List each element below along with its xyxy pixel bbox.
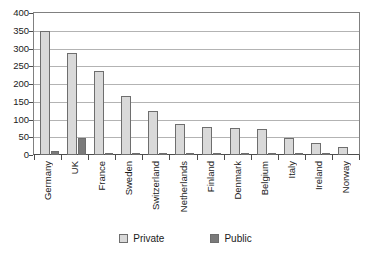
y-tick-label: 300 <box>0 44 29 53</box>
x-tick-label: France <box>96 161 107 191</box>
x-tick-mark <box>61 155 62 160</box>
x-tick-mark <box>359 155 360 160</box>
bar-private <box>338 147 348 155</box>
x-tick-mark <box>197 155 198 160</box>
bar-private <box>311 143 321 155</box>
y-tick-label: 50 <box>0 132 29 141</box>
x-tick-label: Finland <box>205 161 216 192</box>
bar-private <box>230 128 240 155</box>
x-tick-mark <box>34 155 35 160</box>
x-tick-label: Netherlands <box>178 161 189 212</box>
y-tick-label: 350 <box>0 26 29 35</box>
bar-group <box>332 13 359 155</box>
bar-group <box>61 13 88 155</box>
bar-private <box>257 129 267 155</box>
bar-group <box>305 13 332 155</box>
bar-chart: 050100150200250300350400 GermanyUKFrance… <box>0 0 371 265</box>
bar-group <box>251 13 278 155</box>
x-tick-label: Denmark <box>232 161 243 200</box>
x-tick-mark <box>278 155 279 160</box>
bar-private <box>40 31 50 155</box>
x-tick-label: Sweden <box>123 161 134 195</box>
x-tick-mark <box>251 155 252 160</box>
y-axis: 050100150200250300350400 <box>0 0 29 160</box>
legend-item-private: Private <box>119 233 164 244</box>
x-tick-label: Ireland <box>313 161 324 190</box>
x-tick-mark <box>115 155 116 160</box>
y-tick-label: 200 <box>0 79 29 88</box>
y-tick-label: 400 <box>0 8 29 17</box>
legend-label-private: Private <box>133 233 164 244</box>
bar-group <box>224 13 251 155</box>
public-swatch-icon <box>210 234 219 243</box>
bar-group <box>169 13 196 155</box>
x-axis-labels: GermanyUKFranceSwedenSwitzerlandNetherla… <box>34 161 359 223</box>
chart-legend: Private Public <box>0 233 371 244</box>
bar-private <box>94 71 104 155</box>
x-tick-mark <box>169 155 170 160</box>
x-tick-mark <box>142 155 143 160</box>
x-tick-mark <box>224 155 225 160</box>
bar-private <box>202 127 212 155</box>
y-tick-label: 250 <box>0 61 29 70</box>
y-tick-label: 150 <box>0 97 29 106</box>
x-axis-ticks <box>34 155 359 160</box>
legend-label-public: Public <box>224 233 251 244</box>
y-tick-mark <box>29 155 33 156</box>
y-tick-label: 0 <box>0 150 29 159</box>
bar-group <box>115 13 142 155</box>
bar-group <box>88 13 115 155</box>
bar-group <box>34 13 61 155</box>
bar-group <box>278 13 305 155</box>
bar-private <box>175 124 185 155</box>
bar-group <box>197 13 224 155</box>
bars-layer <box>34 13 359 155</box>
x-tick-mark <box>88 155 89 160</box>
bar-group <box>142 13 169 155</box>
bar-private <box>121 96 131 155</box>
private-swatch-icon <box>119 234 128 243</box>
bar-private <box>67 53 77 155</box>
bar-private <box>284 138 294 155</box>
x-tick-label: UK <box>69 161 80 174</box>
y-tick-label: 100 <box>0 115 29 124</box>
x-tick-label: Germany <box>42 161 53 200</box>
x-tick-label: Italy <box>286 161 297 178</box>
x-tick-label: Switzerland <box>150 161 161 210</box>
x-tick-label: Norway <box>340 161 351 193</box>
bar-private <box>148 111 158 155</box>
x-tick-mark <box>305 155 306 160</box>
bar-public <box>78 138 86 155</box>
legend-item-public: Public <box>210 233 251 244</box>
x-tick-mark <box>332 155 333 160</box>
x-tick-label: Belgium <box>259 161 270 195</box>
